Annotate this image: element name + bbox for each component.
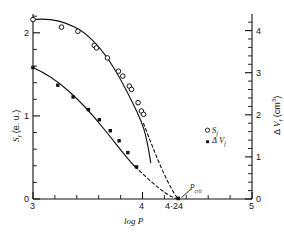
y-right-axis-units: (cm xyxy=(272,102,282,120)
y-right-axis-ticks xyxy=(245,22,252,199)
data-point xyxy=(116,69,121,74)
axis-lines xyxy=(33,14,252,199)
series-dvf-line xyxy=(33,68,135,167)
legend-dvf-subscript: f xyxy=(224,141,226,147)
y-right-axis-superscript: 3 xyxy=(270,99,277,102)
x-tick-label-5: 5 xyxy=(249,202,254,211)
data-point xyxy=(59,25,64,30)
series-sf-extrapolation xyxy=(144,124,179,200)
data-point xyxy=(136,100,141,105)
data-point xyxy=(121,74,126,79)
data-point xyxy=(135,165,138,168)
data-point xyxy=(94,46,99,51)
data-point xyxy=(109,129,112,132)
data-point xyxy=(105,56,110,61)
x-tick-label-pcrit: 4·24 xyxy=(165,202,183,211)
chart-figure: 3 4 5 4·24 0 1 2 0 1 2 3 4 log P Sf (e. … xyxy=(0,0,284,236)
y-left-axis-units: (e. u.) xyxy=(11,110,21,136)
p-crit-subscript: crit xyxy=(195,188,202,194)
legend-entry-dvf: Δ Vf xyxy=(212,136,226,147)
y-right-axis-title: Δ Vf (cm3) xyxy=(271,96,284,135)
y-left-axis-subscript: f xyxy=(16,136,23,138)
data-point xyxy=(117,139,120,142)
y-left-tick-label-2: 2 xyxy=(24,29,29,38)
x-axis-title: log P xyxy=(124,217,143,226)
y-left-axis-symbol: S xyxy=(11,138,21,143)
data-point xyxy=(141,112,146,117)
y-right-axis-subscript: f xyxy=(277,120,284,122)
x-axis-title-text: log P xyxy=(124,216,143,226)
series-dvf-extrapolation xyxy=(135,167,178,199)
series-dvf-markers xyxy=(31,66,138,169)
series-dvf xyxy=(31,66,178,199)
y-right-tick-label-4: 4 xyxy=(256,27,261,36)
legend-dvf-symbol: Δ V xyxy=(212,135,224,145)
y-right-axis-symbol: V xyxy=(272,121,282,127)
data-point xyxy=(31,66,34,69)
y-right-axis-delta: Δ xyxy=(272,129,282,135)
data-point xyxy=(76,29,81,34)
y-right-tick-label-0: 0 xyxy=(256,195,261,204)
x-axis-ticks xyxy=(33,192,252,199)
y-right-tick-label-3: 3 xyxy=(256,69,261,78)
y-left-tick-label-0: 0 xyxy=(24,195,29,204)
x-tick-label-3: 3 xyxy=(30,202,35,211)
data-point xyxy=(126,151,129,154)
y-right-tick-label-2: 2 xyxy=(256,111,261,120)
data-point xyxy=(98,118,101,121)
data-point xyxy=(56,84,59,87)
legend-markers xyxy=(205,128,209,143)
legend-filled-square-icon xyxy=(206,140,209,143)
series-sf xyxy=(31,17,179,199)
y-left-tick-label-1: 1 xyxy=(24,112,29,121)
y-left-axis-ticks xyxy=(33,16,40,199)
data-point xyxy=(87,108,90,111)
data-point xyxy=(31,17,36,22)
series-sf-markers xyxy=(31,17,146,116)
y-right-axis-paren: ) xyxy=(272,96,282,99)
data-point xyxy=(129,87,134,92)
p-crit-point xyxy=(177,197,181,201)
y-right-tick-label-1: 1 xyxy=(256,153,261,162)
x-tick-label-4: 4 xyxy=(139,202,144,211)
p-crit-label: Pcrit xyxy=(190,184,202,194)
data-point xyxy=(71,95,74,98)
y-left-axis-title: Sf (e. u.) xyxy=(12,110,23,142)
legend-open-circle-icon xyxy=(205,128,209,132)
